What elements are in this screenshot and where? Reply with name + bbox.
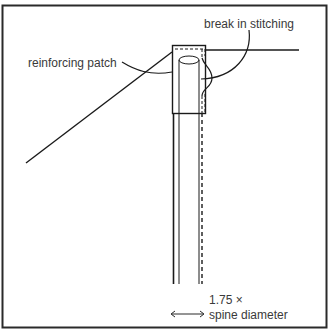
label-break-in-stitching: break in stitching <box>204 17 294 31</box>
kite-spine-diagram: reinforcing patch break in stitching 1.7… <box>0 0 332 335</box>
spine-rod-top <box>179 56 199 64</box>
label-dimension-value: 1.75 × <box>209 293 243 307</box>
stitching-break-curve <box>202 58 212 96</box>
diagram-frame <box>3 6 327 328</box>
dimension-arrow-icon <box>171 311 204 317</box>
label-dimension-unit: spine diameter <box>209 308 288 322</box>
label-reinforcing-patch: reinforcing patch <box>28 56 117 70</box>
leader-break-in-stitching <box>201 30 249 79</box>
